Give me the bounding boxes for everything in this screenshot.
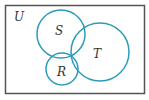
set-s-label: S (55, 24, 63, 38)
universe-label: U (14, 10, 25, 24)
universe-rectangle (6, 6, 145, 94)
set-t-label: T (93, 47, 102, 61)
venn-diagram: U S T R (0, 0, 149, 100)
set-r-label: R (56, 65, 66, 79)
